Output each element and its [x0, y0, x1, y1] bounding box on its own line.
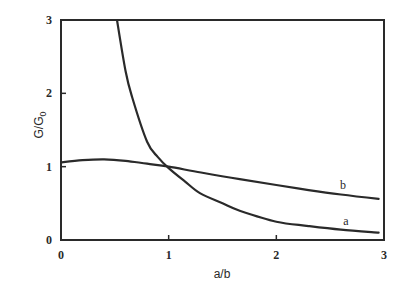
y-axis-label-main: G/G: [32, 117, 46, 139]
curve-a: [117, 20, 379, 233]
curve-label-b: b: [340, 178, 346, 192]
plot-frame: [61, 20, 384, 240]
x-tick-label: 1: [166, 248, 172, 262]
curve-b: [61, 159, 379, 199]
y-axis-label-sub: 0: [38, 111, 48, 116]
chart: 01230123 b a a/b G/G0: [0, 0, 404, 296]
tick-labels: 01230123: [46, 13, 387, 262]
y-axis-label: G/G0: [32, 111, 48, 138]
y-tick-label: 3: [46, 13, 52, 27]
curve-label-a: a: [343, 214, 349, 228]
x-tick-label: 2: [273, 248, 279, 262]
svg-text:G/G0: G/G0: [32, 111, 48, 138]
x-axis-label: a/b: [214, 267, 231, 281]
x-tick-label: 0: [58, 248, 64, 262]
y-tick-label: 1: [46, 160, 52, 174]
x-tick-label: 3: [381, 248, 387, 262]
curves: [61, 20, 379, 233]
y-tick-label: 2: [46, 86, 52, 100]
y-tick-label: 0: [46, 233, 52, 247]
